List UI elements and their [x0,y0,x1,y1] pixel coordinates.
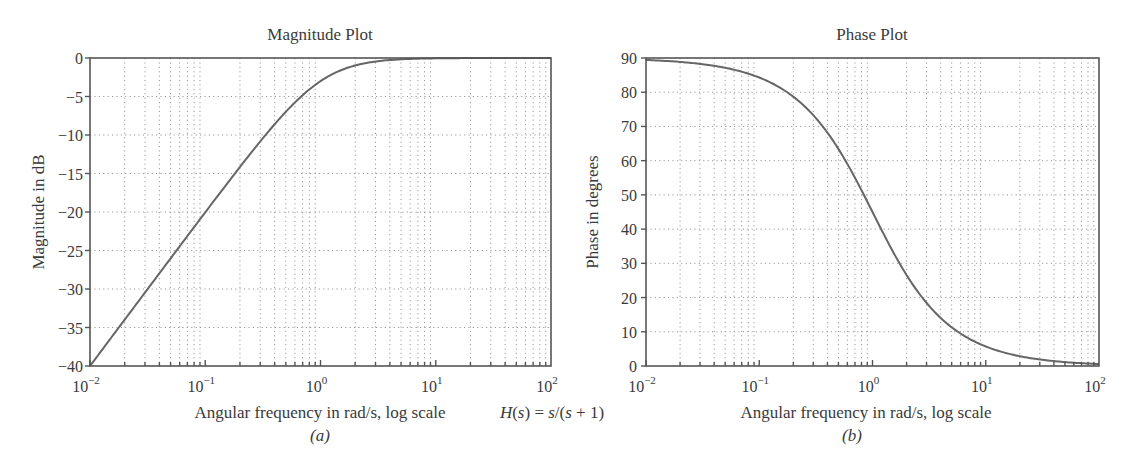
y-tick-label: −35 [58,320,83,337]
x-tick-label: 101 [971,374,993,395]
phase-ylabel: Phase in degrees [583,155,602,268]
phase-ticks: 908070605040302010010−210−1100101102 [621,50,1106,395]
phase-plot: 908070605040302010010−210−1100101102 Pha… [583,25,1106,445]
x-tick-label: 10−2 [72,374,100,395]
x-tick-label: 102 [1084,374,1106,395]
magnitude-caption: (a) [310,426,330,445]
bode-figure: 0−5−10−15−20−25−30−35−4010−210−110010110… [0,0,1142,472]
magnitude-title: Magnitude Plot [267,25,373,44]
y-tick-label: −30 [58,281,83,298]
y-tick-label: 30 [621,255,637,272]
magnitude-ticks: 0−5−10−15−20−25−30−35−4010−210−110010110… [58,50,558,395]
y-tick-label: 20 [621,290,637,307]
y-tick-label: −10 [58,127,83,144]
y-tick-label: 70 [621,118,637,135]
magnitude-grid [90,58,551,366]
y-tick-label: 90 [621,50,637,67]
x-tick-label: 100 [306,374,328,395]
y-tick-label: 80 [621,84,637,101]
magnitude-plot: 0−5−10−15−20−25−30−35−4010−210−110010110… [29,25,558,445]
phase-caption: (b) [842,426,862,445]
phase-xlabel: Angular frequency in rad/s, log scale [740,403,991,422]
x-tick-label: 101 [421,374,443,395]
x-tick-label: 100 [858,374,880,395]
y-tick-label: 50 [621,187,637,204]
transfer-function-equation: H(s) = s/(s + 1) [499,403,604,422]
magnitude-ylabel: Magnitude in dB [29,154,48,269]
x-tick-label: 10−1 [741,374,769,395]
y-tick-label: −5 [66,89,83,106]
y-tick-label: −15 [58,166,83,183]
y-tick-label: 0 [629,358,637,375]
y-tick-label: −40 [58,358,83,375]
x-tick-label: 10−2 [628,374,656,395]
x-tick-label: 102 [536,374,558,395]
y-tick-label: −20 [58,204,83,221]
y-tick-label: 10 [621,324,637,341]
x-tick-label: 10−1 [187,374,215,395]
phase-title: Phase Plot [836,25,908,44]
y-tick-label: 0 [75,50,83,67]
y-tick-label: 60 [621,153,637,170]
y-tick-label: −25 [58,243,83,260]
magnitude-xlabel: Angular frequency in rad/s, log scale [194,403,445,422]
y-tick-label: 40 [621,221,637,238]
